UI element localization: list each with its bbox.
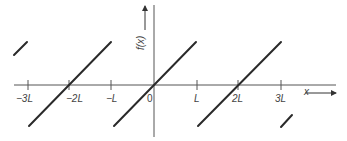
segment-partial-right: [281, 115, 292, 127]
tick-label-L: L: [194, 93, 200, 104]
segment-tooth-minus-2L: [29, 42, 111, 126]
segment-partial-left: [14, 42, 27, 55]
segment-tooth-0: [114, 42, 196, 126]
tick-label-minus-L: −L: [106, 93, 117, 104]
segment-tooth-2L: [198, 42, 281, 126]
tick-label-minus-2L: −2L: [66, 93, 83, 104]
tick-label-2L: 2L: [232, 93, 243, 104]
tick-label-3L: 3L: [275, 93, 286, 104]
tick-label-0: 0: [147, 93, 153, 104]
tick-label-minus-3L: −3L: [16, 93, 33, 104]
sawtooth-diagram: [0, 0, 347, 141]
y-axis-label: f(x): [135, 36, 146, 50]
x-axis-label: x: [304, 86, 309, 97]
